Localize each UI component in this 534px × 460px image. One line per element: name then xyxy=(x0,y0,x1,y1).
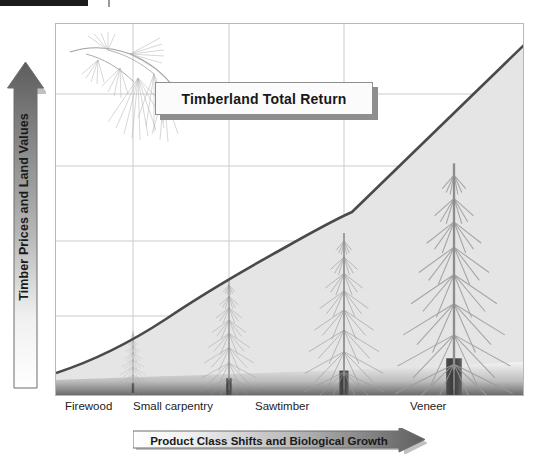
category-label-small-carpentry: Small carpentry xyxy=(133,400,213,412)
x-axis-label: Product Class Shifts and Biological Grow… xyxy=(133,428,405,454)
plot-area xyxy=(55,23,524,396)
category-labels: Firewood Small carpentry Sawtimber Venee… xyxy=(55,400,524,418)
page-title: Timberland Total Return xyxy=(181,91,346,107)
y-axis-label: Timber Prices and Land Values xyxy=(7,37,41,377)
top-tick-mark xyxy=(108,0,110,7)
top-black-bar xyxy=(0,0,88,6)
category-label-veneer: Veneer xyxy=(410,400,446,412)
y-axis-arrow: Timber Prices and Land Values xyxy=(6,22,46,392)
category-label-sawtimber: Sawtimber xyxy=(255,400,309,412)
x-axis-arrow: Product Class Shifts and Biological Grow… xyxy=(133,428,427,454)
chart-svg xyxy=(56,24,524,396)
category-label-firewood: Firewood xyxy=(65,400,112,412)
figure-canvas: Timberland Total Return Timber Prices an… xyxy=(0,0,534,460)
title-card-box: Timberland Total Return xyxy=(155,82,373,115)
